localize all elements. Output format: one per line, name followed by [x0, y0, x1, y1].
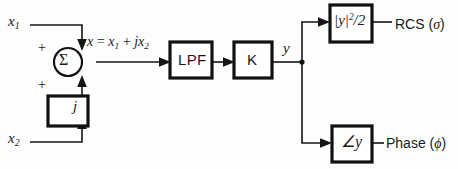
input-label-x2: x2 — [8, 131, 20, 148]
sigma-symbol: Σ — [59, 52, 68, 68]
wire-split-to-magnitude-block — [302, 17, 330, 62]
output-label-phase: Phase (ϕ) — [386, 136, 446, 151]
wire-gain-k-to-split — [272, 59, 305, 64]
block-label-angle: ∠y — [341, 134, 362, 150]
block-label-magnitude-squared: |y|2/2 — [334, 13, 365, 28]
summer-sign-top: + — [38, 41, 46, 55]
block-label-lpf: LPF — [178, 52, 206, 67]
block-label-gain-j: j — [73, 99, 77, 114]
output-label-rcs: RCS (σ) — [395, 17, 445, 32]
block-diagram: x1 x2 + + Σ x = x1 + jx2 j LPF K y |y|2/… — [0, 0, 458, 169]
wire-split-to-angle-block — [302, 62, 332, 148]
wire-lpf-to-gain-k — [212, 57, 235, 67]
input-label-x1: x1 — [8, 14, 20, 31]
wire-gain-j-to-summer — [77, 75, 87, 96]
signal-equation-label: x = x1 + jx2 — [87, 35, 149, 51]
wire-summer-to-lpf — [96, 57, 171, 67]
summer-sign-bottom: + — [38, 78, 46, 92]
intermediate-signal-label-y: y — [283, 41, 290, 56]
block-label-gain-k: K — [247, 52, 257, 67]
block-gain-j — [48, 96, 88, 126]
